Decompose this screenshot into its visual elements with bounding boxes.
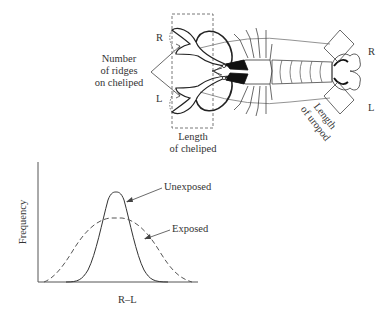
label-line: Number bbox=[94, 53, 144, 65]
eye-patch-lower bbox=[226, 73, 248, 84]
exposed-label: Exposed bbox=[172, 223, 208, 235]
lobster-illustration bbox=[151, 14, 360, 128]
unexposed-curve bbox=[66, 192, 168, 282]
exposed-curve bbox=[44, 218, 192, 282]
frequency-chart bbox=[38, 162, 198, 282]
label-line: of ridges bbox=[94, 65, 144, 77]
unexposed-label: Unexposed bbox=[164, 181, 211, 193]
label-line: Length bbox=[166, 131, 220, 143]
label-line: on cheliped bbox=[94, 77, 144, 89]
figure-canvas bbox=[0, 0, 392, 312]
length-of-cheliped-label: Length of cheliped bbox=[166, 131, 220, 155]
eye-patch-upper bbox=[226, 60, 248, 70]
unexposed-arrow bbox=[126, 188, 162, 202]
x-axis-label: R–L bbox=[118, 294, 137, 306]
tail-label-left: L bbox=[368, 102, 374, 114]
number-of-ridges-label: Number of ridges on cheliped bbox=[94, 53, 144, 89]
uropod-length-box-right bbox=[324, 30, 354, 62]
label-line: of cheliped bbox=[166, 143, 220, 155]
y-axis-label: Frequency bbox=[17, 195, 29, 249]
tail-label-right: R bbox=[368, 46, 375, 58]
claw-label-right: R bbox=[156, 32, 163, 44]
claw-label-left: L bbox=[156, 93, 162, 105]
tail-fan bbox=[332, 54, 360, 90]
